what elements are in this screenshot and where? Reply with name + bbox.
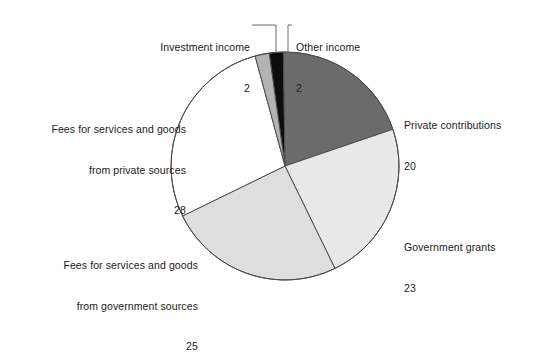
slice-label-other-income-name: Other income [296, 41, 496, 55]
slice-label-government-grants-value: 23 [404, 282, 530, 296]
slice-label-investment-income-value: 2 [28, 82, 250, 96]
leader-line-investment-income [252, 25, 276, 53]
slice-label-fees-private-sources-value: 28 [6, 204, 186, 218]
slice-label-private-contributions-name: Private contributions [404, 119, 530, 133]
slice-label-private-contributions: Private contributions 20 [404, 92, 530, 200]
slice-label-fees-government-sources-line1: Fees for services and goods [6, 259, 198, 273]
slice-label-fees-private-sources-line1: Fees for services and goods [6, 123, 186, 137]
slice-label-fees-private-sources: Fees for services and goods from private… [6, 96, 186, 245]
slice-label-government-grants-name: Government grants [404, 241, 530, 255]
leader-lines-group [252, 25, 292, 53]
slice-label-private-contributions-value: 20 [404, 160, 530, 174]
slice-label-fees-government-sources-value: 25 [6, 340, 198, 354]
slice-label-investment-income-name: Investment income [28, 41, 250, 55]
slice-label-fees-government-sources-line2: from government sources [6, 300, 198, 314]
slice-label-fees-private-sources-line2: from private sources [6, 164, 186, 178]
slice-label-fees-government-sources: Fees for services and goods from governm… [6, 232, 198, 354]
slice-label-government-grants: Government grants 23 [404, 214, 530, 322]
leader-line-other-income [288, 25, 292, 53]
